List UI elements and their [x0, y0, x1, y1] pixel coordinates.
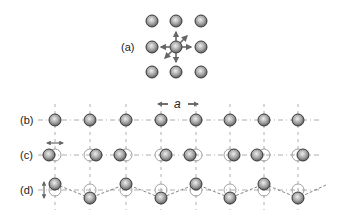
lattice-constant-indicator: a: [158, 97, 198, 111]
panel-a: (a): [121, 15, 207, 78]
lattice-diagram: (a): [0, 0, 343, 219]
panel-c: (c): [20, 143, 320, 161]
panel-d: (d): [20, 178, 326, 204]
panel-b-label: (b): [20, 114, 33, 126]
lattice-constant-label: a: [174, 97, 181, 111]
panel-b: (b): [20, 114, 320, 126]
panel-a-label: (a): [121, 41, 134, 53]
panel-d-label: (d): [20, 184, 33, 196]
square-lattice: [146, 15, 207, 78]
panel-c-label: (c): [20, 149, 33, 161]
